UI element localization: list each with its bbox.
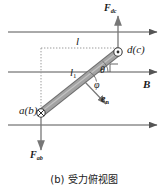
angle-phi-label: φ xyxy=(94,80,100,90)
field-label-B: B xyxy=(143,79,150,90)
length-l1-label: l1 xyxy=(70,67,76,80)
node-marker-bottom xyxy=(37,109,45,117)
force-ab-label: Fab xyxy=(30,150,43,161)
normal-vector-label: en xyxy=(101,94,109,105)
node-label-ab: a(b) xyxy=(19,105,37,116)
node-label-dc: d(c) xyxy=(127,44,145,55)
force-diagram-figure: Fdc d(c) a(b) Fab l l1 θ φ en B (b) 受力俯视… xyxy=(0,0,168,189)
angle-theta-label: θ xyxy=(100,65,105,75)
right-angle-marker xyxy=(110,64,118,72)
figure-caption: (b) 受力俯视图 xyxy=(0,168,168,189)
node-marker-top xyxy=(114,48,122,56)
force-dc-label: Fdc xyxy=(104,3,117,14)
length-l-label: l xyxy=(76,36,79,47)
